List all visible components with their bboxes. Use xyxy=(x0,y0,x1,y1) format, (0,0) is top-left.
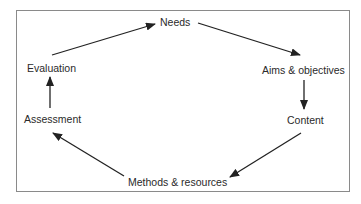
node-assessment: Assessment xyxy=(24,113,81,125)
arrow-methods-to-assessment xyxy=(53,133,124,176)
arrow-evaluation-to-needs xyxy=(52,24,155,55)
cycle-arrows xyxy=(0,0,361,204)
node-aims-objectives: Aims & objectives xyxy=(262,64,345,76)
node-needs: Needs xyxy=(160,16,190,28)
arrow-needs-to-aims xyxy=(198,23,300,55)
node-content: Content xyxy=(287,114,324,126)
node-methods-resources: Methods & resources xyxy=(128,176,227,188)
node-evaluation: Evaluation xyxy=(27,62,76,74)
arrow-content-to-methods xyxy=(230,133,301,177)
